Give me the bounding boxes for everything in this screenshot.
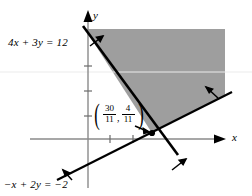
arrow-line2-lower-right xyxy=(172,159,186,170)
graph-canvas xyxy=(0,0,252,196)
label-line1-equation: 4x + 3y = 12 xyxy=(8,36,68,48)
fraction-x-numerator: 30 xyxy=(105,104,114,113)
feasible-region-figure: 4x + 3y = 12 −x + 2y = −2 x y ( 30 11 , … xyxy=(0,0,252,196)
fraction-y-denominator: 11 xyxy=(124,115,133,124)
fraction-x: 30 11 xyxy=(102,104,117,124)
vertex-point xyxy=(149,130,155,136)
fraction-y: 4 11 xyxy=(121,104,136,124)
label-x-axis: x xyxy=(232,131,237,143)
fraction-y-numerator: 4 xyxy=(126,104,131,113)
y-axis-arrowhead xyxy=(84,10,93,22)
label-line2-equation: −x + 2y = −2 xyxy=(4,178,68,190)
x-axis-arrowhead xyxy=(214,135,226,144)
fraction-x-denominator: 11 xyxy=(105,115,114,124)
vertex-coordinate-label: ( 30 11 , 4 11 ) xyxy=(92,104,146,124)
label-y-axis: y xyxy=(93,9,98,21)
